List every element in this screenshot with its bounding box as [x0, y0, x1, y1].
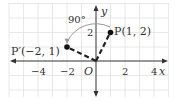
x-tick-2: 2	[122, 66, 128, 77]
x-tick-neg2: −2	[60, 66, 75, 77]
angle-label: 90°	[68, 14, 86, 25]
arc-arrowhead-icon	[65, 39, 70, 45]
segment-OP	[96, 32, 111, 61]
y-axis-arrow-up	[94, 5, 99, 11]
point-P-prime	[64, 44, 70, 50]
y-axis-arrow-down	[94, 91, 99, 97]
x-axis-arrow-left	[10, 59, 16, 64]
y-axis-label: y	[100, 5, 108, 18]
point-P	[108, 30, 114, 36]
point-P-prime-label: P′(−2, 1)	[11, 45, 60, 58]
x-axis-label: x	[159, 65, 166, 78]
x-tick-4: 4	[151, 66, 157, 77]
x-tick-neg4: −4	[31, 66, 46, 77]
x-axis-arrow-right	[162, 59, 168, 64]
y-tick-2: 2	[87, 27, 93, 38]
origin-label: O	[84, 65, 93, 78]
point-P-label: P(1, 2)	[114, 25, 151, 38]
coordinate-plane: y x O −4 −2 2 4 2 90° P(1, 2) P′(−2, 1)	[0, 0, 180, 101]
